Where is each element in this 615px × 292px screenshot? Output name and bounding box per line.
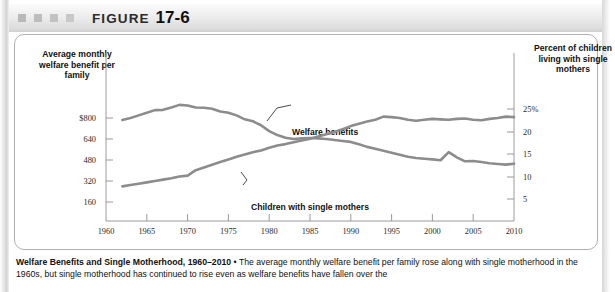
page-left-gutter [0,0,9,292]
x-axis-tick-label: 1960 [98,227,115,236]
left-axis-tick-label: 160 [83,198,96,207]
left-axis-tick-label: 640 [83,135,96,144]
right-axis-tick-label: 15 [523,150,531,159]
caption-separator: • [231,257,239,267]
right-axis-tick-label: 25% [523,105,538,114]
x-axis-tick-label: 1980 [261,227,278,236]
series-line-welfare-benefits [122,105,514,165]
x-axis-tick-label: 1990 [342,227,359,236]
x-axis-tick-label: 2010 [506,227,523,236]
right-axis-tick-label: 20 [523,128,531,137]
left-axis-tick-label: $800 [79,114,96,123]
chart-plot-area: $80064048032016025%201510519601965197019… [15,35,599,251]
x-axis-tick-label: 1970 [179,227,196,236]
figure-header-bar: FIGURE 17-6 [9,4,602,32]
right-axis-tick-label: 10 [523,173,531,182]
annotation-leader-children [241,172,247,185]
figure-caption: Welfare Benefits and Single Motherhood, … [16,256,596,281]
right-axis-tick-label: 5 [523,195,527,204]
x-axis-tick-label: 1985 [302,227,319,236]
series-line-children-single-mothers [122,117,514,187]
decor-square-icon [34,14,42,22]
x-axis-tick-label: 1975 [220,227,237,236]
decor-square-icon [18,14,26,22]
annotation-leader-welfare [267,105,291,121]
x-axis-tick-label: 1965 [138,227,155,236]
decor-square-icon [50,14,58,22]
x-axis-tick-label: 1995 [383,227,400,236]
caption-title: Welfare Benefits and Single Motherhood, … [16,257,231,267]
figure-word: FIGURE [92,11,150,26]
x-axis-tick-label: 2005 [465,227,482,236]
chart-card: Average monthly welfare benefit per fami… [14,34,598,250]
x-axis-tick-label: 2000 [424,227,441,236]
decor-squares [18,14,74,22]
figure-number: 17-6 [156,8,190,28]
left-axis-tick-label: 480 [83,156,96,165]
left-axis-tick-label: 320 [83,177,96,186]
decor-square-icon [66,14,74,22]
